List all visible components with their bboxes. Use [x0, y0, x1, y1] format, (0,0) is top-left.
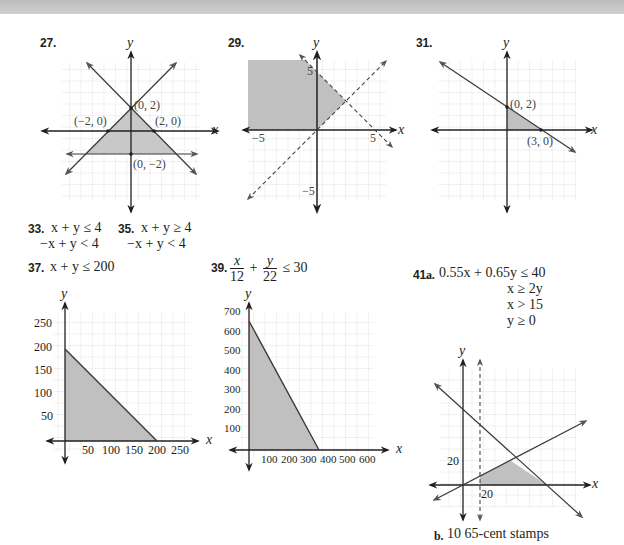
rhs: ≤ 30 — [282, 260, 307, 275]
axis-label-y-41: y — [459, 343, 465, 359]
numerator: x — [230, 253, 244, 269]
axis-label-x-37: x — [206, 432, 212, 448]
problem-33-line2: −x + y < 4 — [40, 236, 99, 252]
numerator: y — [263, 253, 277, 269]
tick-y-50: 50 — [41, 409, 53, 424]
graph-41-plot — [430, 360, 590, 520]
graph-37-plot — [47, 303, 198, 463]
tick-y-500: 500 — [224, 344, 241, 356]
problem-35-line1: x + y ≥ 4 — [141, 220, 192, 236]
problem-41-line2: x ≥ 2y — [507, 281, 543, 297]
axis-label-x-31: x — [591, 122, 597, 138]
tick-y-5: 5 — [307, 64, 313, 79]
problem-41-line1: 0.55x + 0.65y ≤ 40 — [439, 265, 546, 281]
tick-x-500: 500 — [339, 453, 356, 465]
problem-35-line2: −x + y < 4 — [127, 236, 186, 252]
problem-37-number: 37. — [28, 261, 44, 275]
tick-y-100: 100 — [224, 422, 241, 434]
axis-label-x-29: x — [398, 122, 404, 138]
point-label-0-neg2: (0, −2) — [133, 157, 166, 172]
tick-x-200: 200 — [148, 443, 166, 458]
tick-x-200: 200 — [281, 453, 298, 465]
tick-x-50: 50 — [82, 443, 94, 458]
problem-33-number: 33. — [28, 222, 44, 236]
problem-41-answer-b: 10 65-cent stamps — [447, 526, 549, 542]
denominator: 12 — [230, 269, 244, 284]
axis-label-x-27: x — [212, 122, 218, 138]
tick-x-600: 600 — [359, 453, 376, 465]
point-label-3-0: (3, 0) — [527, 134, 553, 149]
graph-27-plot — [42, 52, 218, 212]
tick-y-300: 300 — [224, 383, 241, 395]
tick-x-5: 5 — [370, 131, 376, 146]
problem-41-line3: x > 15 — [507, 297, 543, 313]
problem-39-number: 39. — [211, 261, 227, 275]
tick-y-150: 150 — [34, 363, 52, 378]
axis-label-x-41: x — [592, 476, 598, 492]
axis-label-y-37: y — [61, 286, 67, 302]
point-label-2-0: (2, 0) — [155, 114, 181, 129]
axis-label-y-27: y — [127, 35, 133, 51]
tick-y-20: 20 — [447, 454, 459, 469]
fraction-y-over-22: y22 — [263, 253, 277, 284]
part-b-label: b. — [434, 529, 443, 544]
tick-y-700: 700 — [224, 305, 241, 317]
problem-37-inequality: x + y ≤ 200 — [50, 259, 115, 275]
problem-33-line1: x + y ≤ 4 — [51, 220, 102, 236]
tick-y-200: 200 — [34, 340, 52, 355]
axis-label-y-39: y — [245, 286, 251, 302]
tick-x-150: 150 — [125, 443, 143, 458]
tick-y-neg5: −5 — [302, 184, 315, 199]
tick-y-250: 250 — [34, 316, 52, 331]
point-label-neg2-0: (−2, 0) — [74, 114, 107, 129]
tick-y-600: 600 — [224, 325, 241, 337]
tick-y-200: 200 — [224, 403, 241, 415]
tick-x-neg5: −5 — [252, 131, 265, 146]
tick-x-20: 20 — [481, 487, 493, 502]
problem-41-line4: y ≥ 0 — [507, 313, 536, 329]
tick-x-300: 300 — [300, 453, 317, 465]
fraction-x-over-12: x12 — [230, 253, 244, 284]
denominator: 22 — [263, 269, 277, 284]
point-label-0-2: (0, 2) — [134, 98, 160, 113]
tick-y-100: 100 — [34, 386, 52, 401]
tick-x-250: 250 — [171, 443, 189, 458]
tick-x-100: 100 — [102, 443, 120, 458]
axis-label-y-29: y — [313, 35, 319, 51]
problem-35-number: 35. — [118, 222, 134, 236]
graph-39-plot — [230, 303, 388, 470]
tick-x-100: 100 — [261, 453, 278, 465]
axis-label-x-39: x — [396, 441, 402, 457]
tick-x-400: 400 — [320, 453, 337, 465]
point-label-0-2: (0, 2) — [510, 97, 536, 112]
part-a-label: a. — [426, 268, 435, 283]
graph-31-plot — [432, 52, 592, 212]
problem-39-inequality: x12 + y22 ≤ 30 — [228, 253, 308, 284]
plus-sign: + — [250, 260, 258, 275]
axis-label-y-31: y — [503, 35, 509, 51]
tick-y-400: 400 — [224, 364, 241, 376]
